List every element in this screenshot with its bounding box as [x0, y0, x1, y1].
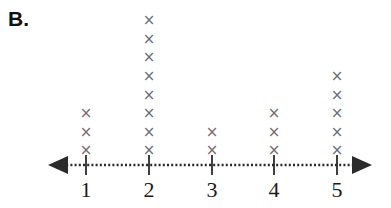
mark-stack: ×××	[261, 104, 287, 160]
x-mark-icon: ×	[199, 123, 225, 142]
x-mark-icon: ×	[73, 123, 99, 142]
x-mark-icon: ×	[136, 48, 162, 67]
mark-stack: ××	[199, 123, 225, 160]
plot-area: ××××××××××××××××××××× 12345	[0, 0, 391, 208]
tick-label: 2	[129, 179, 169, 201]
left-arrow-icon	[48, 156, 68, 174]
x-mark-icon: ×	[324, 123, 350, 142]
x-mark-icon: ×	[73, 104, 99, 123]
x-mark-icon: ×	[261, 141, 287, 160]
x-mark-icon: ×	[73, 141, 99, 160]
right-arrow-icon	[352, 156, 372, 174]
mark-stack: ××××××××	[136, 11, 162, 160]
x-mark-icon: ×	[324, 104, 350, 123]
mark-stack: ×××	[73, 104, 99, 160]
x-mark-icon: ×	[324, 86, 350, 105]
dot-plot-figure: B. ××××××××××××××××××××× 12345	[0, 0, 391, 208]
x-mark-icon: ×	[261, 104, 287, 123]
tick-label: 1	[66, 179, 106, 201]
x-mark-icon: ×	[136, 67, 162, 86]
x-mark-icon: ×	[136, 86, 162, 105]
x-mark-icon: ×	[136, 104, 162, 123]
x-mark-icon: ×	[136, 123, 162, 142]
tick-label: 5	[317, 179, 357, 201]
x-mark-icon: ×	[324, 141, 350, 160]
x-mark-icon: ×	[136, 141, 162, 160]
mark-stack: ×××××	[324, 67, 350, 160]
x-mark-icon: ×	[261, 123, 287, 142]
x-mark-icon: ×	[199, 141, 225, 160]
x-mark-icon: ×	[136, 30, 162, 49]
tick-label: 3	[192, 179, 232, 201]
tick-label: 4	[254, 179, 294, 201]
x-mark-icon: ×	[324, 67, 350, 86]
x-mark-icon: ×	[136, 11, 162, 30]
